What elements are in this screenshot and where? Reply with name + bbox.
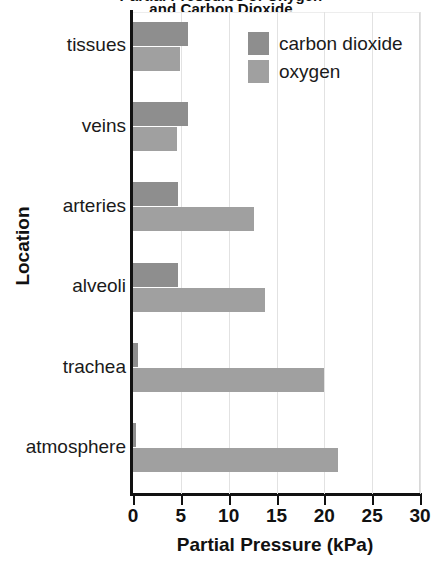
- gridline: [181, 12, 182, 494]
- bar-veins-oxygen: [133, 127, 177, 151]
- x-axis-title: Partial Pressure (kPa): [110, 534, 440, 556]
- x-tick: [420, 496, 422, 505]
- x-tick: [181, 496, 183, 505]
- bar-alveoli-carbon-dioxide: [133, 263, 178, 287]
- category-label-trachea: trachea: [8, 357, 126, 377]
- gridline: [229, 12, 230, 494]
- bar-tissues-carbon-dioxide: [133, 22, 188, 46]
- bar-arteries-oxygen: [133, 207, 254, 231]
- legend-swatch-icon: [248, 32, 269, 55]
- bar-tissues-oxygen: [133, 47, 180, 71]
- y-axis-title: Location: [12, 201, 34, 291]
- legend-label: carbon dioxide: [279, 33, 403, 54]
- x-tick: [133, 496, 135, 505]
- bar-atmosphere-carbon-dioxide: [133, 423, 136, 447]
- legend: carbon dioxideoxygen: [248, 31, 403, 87]
- category-label-tissues: tissues: [8, 35, 126, 55]
- x-tick: [277, 496, 279, 505]
- legend-item-oxygen: oxygen: [248, 59, 403, 84]
- x-tick-label: 15: [257, 505, 297, 527]
- x-tick-label: 20: [304, 505, 344, 527]
- x-tick: [229, 496, 231, 505]
- bar-arteries-carbon-dioxide: [133, 182, 178, 206]
- x-tick: [372, 496, 374, 505]
- x-tick-label: 10: [209, 505, 249, 527]
- bar-atmosphere-oxygen: [133, 448, 338, 472]
- x-tick-label: 25: [352, 505, 392, 527]
- x-tick-label: 5: [161, 505, 201, 527]
- gridline: [420, 12, 421, 494]
- category-label-veins: veins: [8, 116, 126, 136]
- bar-trachea-oxygen: [133, 368, 324, 392]
- category-label-atmosphere: atmosphere: [8, 437, 126, 457]
- x-tick-label: 0: [113, 505, 153, 527]
- bar-alveoli-oxygen: [133, 288, 265, 312]
- bar-chart: Partial Pressures of Oxygen and Carbon D…: [0, 0, 442, 578]
- x-tick: [324, 496, 326, 505]
- bar-veins-carbon-dioxide: [133, 102, 188, 126]
- legend-label: oxygen: [279, 61, 340, 82]
- x-tick-label: 30: [400, 505, 440, 527]
- legend-swatch-icon: [248, 60, 269, 83]
- legend-item-carbon-dioxide: carbon dioxide: [248, 31, 403, 56]
- bar-trachea-carbon-dioxide: [133, 343, 138, 367]
